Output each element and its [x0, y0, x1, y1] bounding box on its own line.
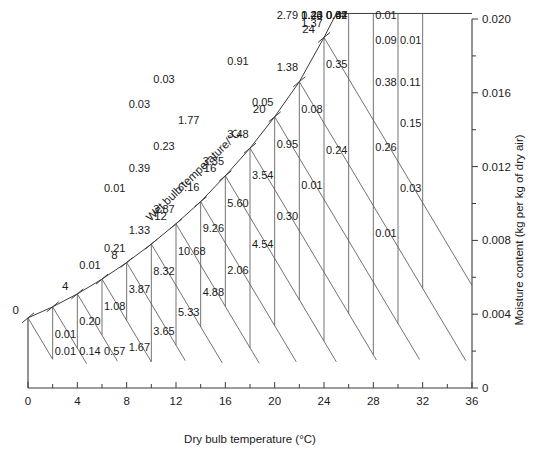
cell-value: 0.01	[375, 227, 396, 239]
y-tick-label: 0	[482, 382, 488, 394]
x-tick-label: 24	[318, 395, 331, 407]
wet-bulb-line	[151, 244, 222, 363]
cell-value: 0.35	[326, 58, 347, 70]
cell-value: 0.01	[79, 259, 100, 271]
y-tick-label: 0.004	[482, 308, 511, 320]
wet-bulb-label: 0	[13, 304, 19, 316]
x-tick-label: 16	[219, 395, 232, 407]
wet-bulb-line	[28, 318, 53, 359]
x-tick-label: 4	[74, 395, 81, 407]
cell-value: 1.08	[104, 300, 125, 312]
cell-value: 0.26	[375, 141, 396, 153]
cell-value: 1.77	[178, 114, 199, 126]
cell-values-group: 0.010.010.140.200.010.571.080.210.011.67…	[55, 9, 422, 357]
x-tick-label: 28	[367, 395, 380, 407]
cell-value: 0.23	[153, 140, 174, 152]
axes-group	[28, 19, 478, 388]
cell-value: 1.38	[277, 61, 298, 73]
cell-value: 3.54	[252, 169, 273, 181]
cell-value: 1.67	[129, 341, 150, 353]
cell-value: 0.11	[400, 76, 421, 88]
x-tick-label: 12	[170, 395, 183, 407]
cell-value: 0.95	[277, 138, 298, 150]
cell-value: 0.15	[400, 117, 421, 129]
cell-value: 0.03	[153, 73, 174, 85]
cell-value: 0.01	[301, 179, 322, 191]
x-tick-label: 32	[416, 395, 429, 407]
cell-value: 0.05	[252, 96, 273, 108]
cell-value: 4.54	[252, 238, 273, 250]
x-tick-label: 8	[123, 395, 129, 407]
cell-value: 9.26	[203, 222, 224, 234]
wet-bulb-label: 4	[62, 280, 69, 292]
cell-value: 0.04	[326, 9, 347, 21]
cell-value: 10.68	[178, 245, 206, 257]
cell-value: 0.01	[400, 34, 421, 46]
cell-value: 0.09	[375, 34, 396, 46]
cell-value: 0.01	[55, 345, 76, 357]
x-tick-label: 36	[466, 395, 479, 407]
cell-value: 3.87	[129, 283, 150, 295]
cell-value: 0.01	[55, 328, 76, 340]
x-tick-label: 20	[268, 395, 281, 407]
cell-value: 0.91	[227, 55, 248, 67]
cell-value: 0.01	[375, 9, 396, 21]
y-tick-label: 0.008	[482, 234, 511, 246]
cell-value: 0.30	[277, 210, 298, 222]
cell-value: 0.14	[79, 345, 100, 357]
cell-value: 5.33	[178, 306, 199, 318]
cell-value: 0.24	[326, 144, 347, 156]
cell-value: 0.21	[104, 242, 125, 254]
cell-value: 0.08	[301, 103, 322, 115]
cell-value: 2.06	[227, 264, 248, 276]
cell-value: 3.65	[153, 325, 174, 337]
x-tick-label: 0	[25, 395, 31, 407]
cell-value: 0.39	[129, 162, 150, 174]
y-axis-title: Moisture content (kg per kg of dry air)	[513, 134, 525, 325]
y-tick-label: 0.012	[482, 161, 511, 173]
y-tick-label: 0.016	[482, 87, 511, 99]
x-axis-title: Dry bulb temperature (°C)	[184, 433, 316, 445]
cell-value: 0.03	[400, 182, 421, 194]
psychrometric-chart: 0481216202428323600.0040.0080.0120.0160.…	[0, 0, 536, 458]
cell-value: 0.01	[104, 182, 125, 194]
cell-value: 0.03	[129, 98, 150, 110]
cell-value: 2.79	[277, 9, 298, 21]
cell-value: 0.57	[104, 345, 125, 357]
cell-value: 5.60	[227, 197, 248, 209]
cell-value: 8.32	[153, 265, 174, 277]
chart-canvas: 0481216202428323600.0040.0080.0120.0160.…	[0, 0, 536, 458]
cell-value: 0.24	[301, 9, 322, 21]
y-tick-label: 0.020	[482, 13, 511, 25]
cell-value: 0.20	[79, 315, 100, 327]
cell-value: 0.38	[375, 76, 396, 88]
cell-value: 1.33	[129, 224, 150, 236]
cell-value: 4.88	[203, 286, 224, 298]
